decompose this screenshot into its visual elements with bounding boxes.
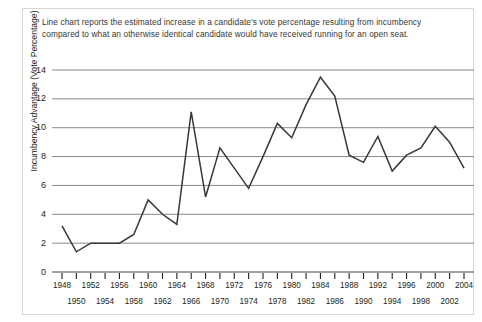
figure-container: Line chart reports the estimated increas… [0, 0, 482, 322]
x-axis-ticks [62, 273, 464, 279]
plot-area: Incumbency Advantage (Vote Percentage) 0… [0, 0, 482, 322]
incumbency-advantage-line [62, 77, 464, 252]
chart-svg [0, 0, 482, 322]
